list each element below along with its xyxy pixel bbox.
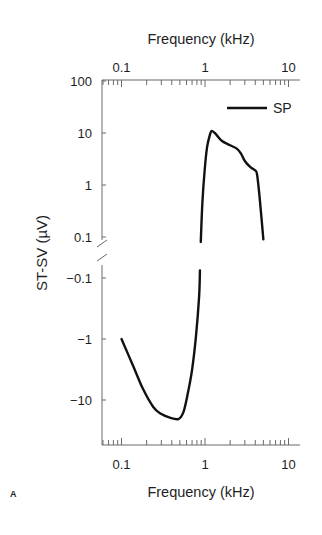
x-tick-label-bottom: 10	[281, 457, 295, 472]
x-axis-title-top: Frequency (kHz)	[147, 31, 254, 47]
y-tick-label: −1	[77, 332, 92, 347]
series-sp-segment-0	[122, 270, 200, 419]
y-tick-label: −10	[70, 393, 92, 408]
ticks	[102, 80, 289, 445]
x-tick-label-top: 10	[281, 60, 295, 75]
y-tick-label: −0.1	[66, 271, 92, 286]
y-tick-label: 10	[78, 126, 92, 141]
legend-label-sp: SP	[273, 100, 292, 116]
y-tick-label: 1	[85, 178, 92, 193]
plot-area	[122, 131, 264, 419]
axis-break-mark	[97, 240, 107, 247]
axis-break-mark	[97, 254, 107, 261]
x-axis-title-bottom: Frequency (kHz)	[147, 484, 254, 500]
legend: SP	[227, 100, 292, 116]
y-tick-label: 100	[70, 74, 92, 89]
x-tick-label-bottom: 1	[201, 457, 208, 472]
tick-labels: 0.10.11110101001010.1−0.1−1−10	[66, 60, 295, 472]
axes	[97, 80, 300, 445]
panel-label: A	[10, 489, 17, 499]
x-tick-label-bottom: 0.1	[112, 457, 130, 472]
y-tick-label: 0.1	[74, 230, 92, 245]
y-axis-title: ST-SV (µV)	[33, 215, 50, 291]
x-tick-label-top: 1	[201, 60, 208, 75]
series-sp-segment-1	[201, 131, 264, 242]
x-tick-label-top: 0.1	[112, 60, 130, 75]
figure: 0.10.11110101001010.1−0.1−1−10 Frequency…	[0, 0, 322, 535]
